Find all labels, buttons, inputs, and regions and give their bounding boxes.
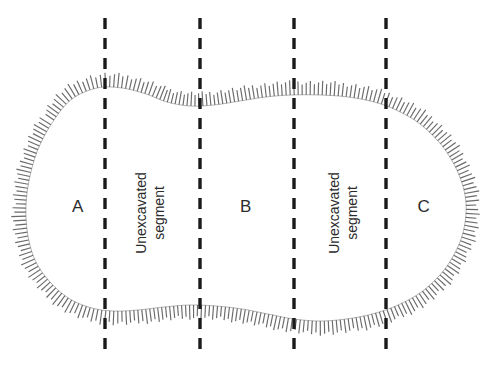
trench-plan-svg [0, 0, 491, 373]
unexcavated-label-line-1: Unexcavated [133, 172, 151, 254]
unexcavated-segment-label-1: Unexcavated segment [109, 196, 191, 231]
unexcavated-label-line-2: segment [150, 172, 168, 254]
segment-label-b: B [240, 197, 252, 217]
figure-canvas: A B C Unexcavated segment Unexcavated se… [0, 0, 491, 373]
unexcavated-label-line-2: segment [343, 172, 361, 254]
unexcavated-segment-label-2: Unexcavated segment [302, 196, 384, 231]
segment-label-a: A [72, 197, 84, 217]
unexcavated-label-line-1: Unexcavated [326, 172, 344, 254]
segment-label-c: C [418, 197, 431, 217]
